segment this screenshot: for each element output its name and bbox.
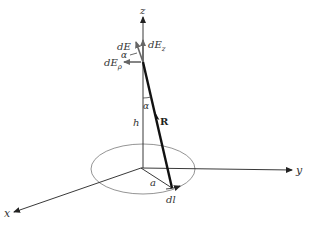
- ring-charge-field-diagram: y x z a dl R h α dEz dE dEρ α: [0, 0, 315, 230]
- dl-label: dl: [166, 194, 176, 205]
- angle-label-top: α: [143, 101, 149, 111]
- dErho-label: dEρ: [104, 57, 123, 71]
- angle-arc-top: [143, 97, 151, 98]
- x-axis-label: x: [4, 207, 11, 220]
- angle-label-field: α: [121, 50, 127, 60]
- dE-vector: [136, 42, 143, 62]
- R-label: R: [160, 116, 169, 127]
- z-axis-label: z: [139, 5, 146, 16]
- dEz-label: dEz: [148, 39, 166, 53]
- angle-pointer: [130, 53, 137, 55]
- y-axis-label: y: [295, 164, 303, 177]
- x-axis: [14, 168, 141, 212]
- radius-label: a: [150, 177, 156, 188]
- height-label: h: [133, 117, 139, 128]
- y-axis: [141, 168, 292, 170]
